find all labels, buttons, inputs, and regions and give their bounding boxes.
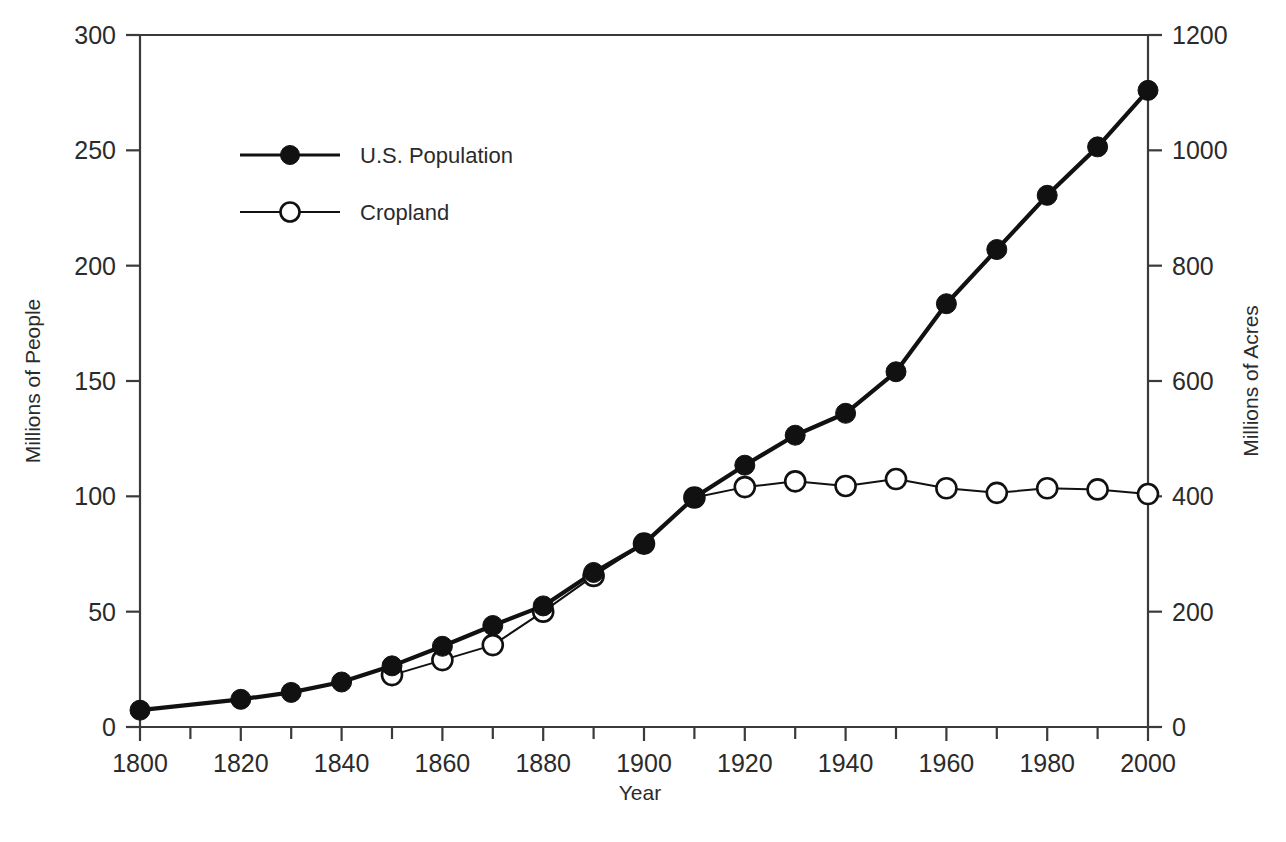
y-right-tick-label: 800 (1172, 252, 1214, 280)
y-right-tick-label: 200 (1172, 598, 1214, 626)
legend-label-cropland: Cropland (360, 200, 449, 225)
cropland-data-point (1088, 479, 1108, 499)
cropland-data-point (936, 478, 956, 498)
cropland-line (392, 479, 1148, 675)
cropland-markers (382, 469, 1158, 685)
x-tick-label: 1840 (314, 749, 370, 777)
cropland-data-point (483, 635, 503, 655)
y-left-tick-label: 250 (74, 136, 116, 164)
cropland-data-point (735, 477, 755, 497)
filled-circle-icon (281, 146, 300, 165)
us-population-data-point (886, 362, 906, 382)
y-right-tick-label: 1200 (1172, 21, 1228, 49)
us-population-line (140, 90, 1148, 710)
y-left-tick-label: 200 (74, 252, 116, 280)
us-population-data-point (483, 616, 503, 636)
cropland-data-point (886, 469, 906, 489)
us-population-data-point (533, 596, 553, 616)
us-population-data-point (231, 689, 251, 709)
x-tick-label: 1920 (717, 749, 773, 777)
us-population-markers (130, 80, 1158, 720)
us-population-data-point (281, 682, 301, 702)
us-population-data-point (1138, 80, 1158, 100)
us-population-data-point (584, 562, 604, 582)
y-axis-right-title: Millions of Acres (1239, 305, 1262, 457)
x-tick-label: 2000 (1120, 749, 1176, 777)
y-left-tick-label: 300 (74, 21, 116, 49)
us-population-data-point (836, 403, 856, 423)
cropland-data-point (987, 483, 1007, 503)
x-axis-tick-labels: 1800182018401860188019001920194019601980… (112, 749, 1176, 777)
us-population-data-point (130, 700, 150, 720)
x-tick-label: 1940 (818, 749, 874, 777)
x-tick-label: 1880 (515, 749, 571, 777)
us-population-data-point (634, 534, 654, 554)
plot-frame (140, 35, 1148, 727)
legend-item-cropland[interactable]: Cropland (240, 200, 449, 225)
y-axis-left-title: Millions of People (21, 299, 44, 464)
y-right-tick-label: 0 (1172, 713, 1186, 741)
y-right-tick-label: 400 (1172, 482, 1214, 510)
y-left-tick-label: 150 (74, 367, 116, 395)
x-tick-label: 1800 (112, 749, 168, 777)
us-population-data-point (432, 636, 452, 656)
open-circle-icon (281, 203, 300, 222)
us-population-data-point (987, 240, 1007, 260)
y-right-tick-label: 1000 (1172, 136, 1228, 164)
us-population-data-point (382, 656, 402, 676)
legend-label-us-population: U.S. Population (360, 143, 513, 168)
series-layer (130, 80, 1158, 720)
x-tick-label: 1860 (415, 749, 471, 777)
us-population-data-point (332, 672, 352, 692)
y-axis-right-tick-labels: 020040060080010001200 (1172, 21, 1228, 741)
y-axis-left-ticks (126, 35, 140, 727)
x-tick-label: 1900 (616, 749, 672, 777)
y-axis-left-tick-labels: 050100150200250300 (74, 21, 116, 741)
y-left-tick-label: 50 (88, 598, 116, 626)
us-population-data-point (936, 294, 956, 314)
x-tick-label: 1980 (1019, 749, 1075, 777)
x-axis-title: Year (619, 781, 661, 804)
y-right-tick-label: 600 (1172, 367, 1214, 395)
cropland-data-point (785, 471, 805, 491)
chart-page: 050100150200250300 020040060080010001200… (0, 0, 1286, 842)
us-population-data-point (785, 425, 805, 445)
legend-item-us-population[interactable]: U.S. Population (240, 143, 513, 168)
us-population-data-point (735, 455, 755, 475)
cropland-data-point (1138, 484, 1158, 504)
us-population-data-point (1088, 137, 1108, 157)
x-tick-label: 1820 (213, 749, 269, 777)
y-left-tick-label: 0 (102, 713, 116, 741)
cropland-data-point (836, 476, 856, 496)
y-axis-right-ticks (1148, 35, 1162, 727)
line-chart: 050100150200250300 020040060080010001200… (0, 0, 1286, 842)
x-tick-label: 1960 (919, 749, 975, 777)
us-population-data-point (1037, 185, 1057, 205)
x-axis-ticks (140, 727, 1148, 741)
us-population-data-point (684, 487, 704, 507)
y-left-tick-label: 100 (74, 482, 116, 510)
cropland-data-point (1037, 478, 1057, 498)
legend: U.S. Population Cropland (240, 143, 513, 225)
